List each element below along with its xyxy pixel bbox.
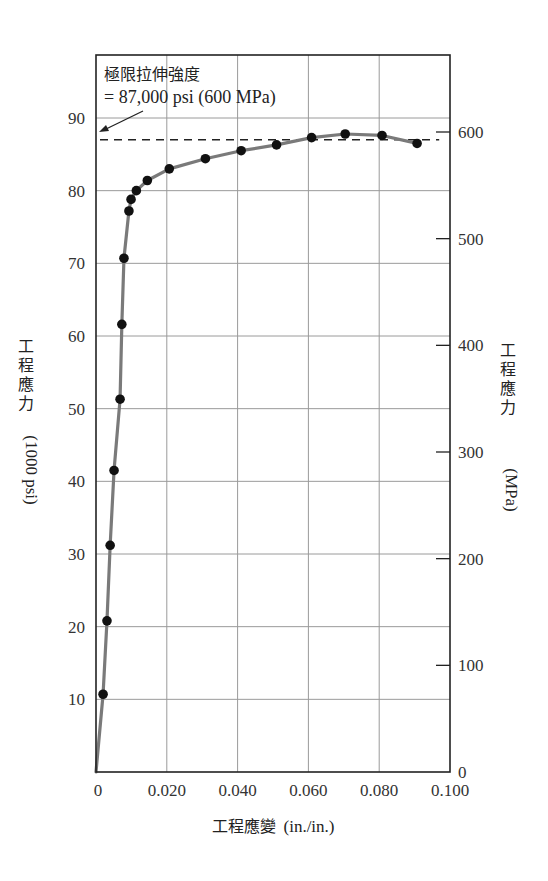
y2-tick-label: 100: [458, 656, 484, 675]
y2-axis-title-zh: 工程應力: [500, 341, 516, 417]
annotation-value: = 87,000 psi (600 MPa): [104, 87, 276, 108]
y-tick-label: 30: [68, 545, 85, 564]
stress-strain-curve: [96, 134, 417, 772]
y2-tick-label: 600: [458, 123, 484, 142]
x-axis-title: 工程應變 (in./in.): [212, 817, 335, 836]
data-point: [124, 206, 134, 216]
data-point: [132, 186, 142, 196]
data-point: [119, 253, 129, 263]
y-axis-title-mpa: 工程應力 (MPa): [500, 341, 521, 512]
data-point: [109, 466, 119, 476]
y-axis-title-zh: 工程應力: [18, 337, 34, 413]
y2-tick-label: 300: [458, 443, 484, 462]
y-axis-title-ksi: 工程應力 (1000 psi): [18, 337, 41, 505]
y-tick-label: 50: [68, 400, 85, 419]
y2-axis-title-unit: (MPa): [502, 468, 521, 511]
data-point: [377, 131, 387, 141]
y-axis-ticks-ksi: 102030405060708090: [68, 109, 85, 709]
y-tick-label: 60: [68, 327, 85, 346]
data-point: [143, 176, 153, 186]
data-point: [236, 146, 246, 156]
grid-lines: [96, 55, 450, 772]
x-tick-label: 0.100: [431, 781, 469, 800]
data-point: [102, 616, 112, 626]
y-tick-label: 10: [68, 690, 85, 709]
y-axis-ticks-mpa: 0100200300400500600: [436, 123, 484, 782]
y-axis-title-unit: (1000 psi): [22, 435, 41, 504]
y2-tick-label: 0: [458, 763, 467, 782]
data-point: [164, 164, 174, 174]
stress-strain-chart: 102030405060708090 0100200300400500600 0…: [0, 0, 548, 881]
data-point: [307, 133, 317, 143]
data-point: [115, 394, 125, 404]
y-tick-label: 70: [68, 254, 85, 273]
data-point: [340, 129, 350, 139]
y-tick-label: 40: [68, 472, 85, 491]
annotation-label: 極限拉伸強度: [104, 65, 200, 84]
x-tick-label: 0.040: [218, 781, 256, 800]
y2-tick-label: 500: [458, 230, 484, 249]
y-tick-label: 20: [68, 618, 85, 637]
x-tick-label: 0: [94, 781, 103, 800]
data-point: [126, 195, 136, 205]
y-tick-label: 80: [68, 182, 85, 201]
data-point: [117, 320, 127, 330]
annotation-arrow-icon: [99, 111, 143, 132]
x-tick-label: 0.060: [289, 781, 327, 800]
data-point: [201, 154, 211, 164]
data-point: [272, 140, 282, 150]
x-tick-label: 0.020: [148, 781, 186, 800]
curve-path: [96, 134, 417, 772]
y-tick-label: 90: [68, 109, 85, 128]
plot-frame: [96, 55, 450, 772]
y2-tick-label: 200: [458, 550, 484, 569]
data-point: [412, 139, 422, 149]
x-tick-label: 0.080: [360, 781, 398, 800]
data-markers: [98, 129, 422, 699]
y2-tick-label: 400: [458, 336, 484, 355]
x-axis-ticks: 00.0200.0400.0600.0800.100: [94, 781, 469, 800]
data-point: [98, 689, 108, 699]
data-point: [105, 540, 115, 550]
